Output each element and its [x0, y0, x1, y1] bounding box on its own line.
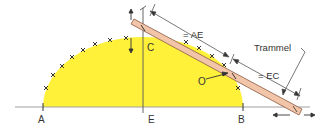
label-c: C	[147, 42, 154, 53]
label-b: B	[238, 114, 245, 125]
label-a: A	[38, 114, 45, 125]
label-ae: = AE	[183, 29, 203, 40]
label-trammel: Trammel	[254, 42, 291, 53]
label-e: E	[148, 114, 155, 125]
label-o: O	[198, 76, 206, 87]
horizontal-motion-arrows	[273, 113, 315, 117]
trammel-ellipse-diagram: A E B C O = AE = EC Trammel	[0, 0, 330, 131]
label-ec: = EC	[258, 70, 280, 81]
